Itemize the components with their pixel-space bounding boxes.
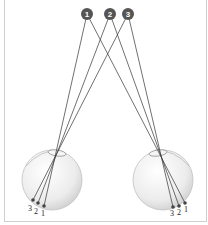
svg-text:2: 2 bbox=[108, 10, 113, 19]
left-retina-label-2: 2 bbox=[34, 207, 38, 216]
left-retina-label-3: 3 bbox=[28, 204, 32, 213]
object-2: 2 bbox=[104, 8, 116, 20]
left-eye bbox=[22, 149, 82, 210]
diagram-frame: 3 2 1 3 2 1 1 2 3 bbox=[0, 0, 208, 225]
right-retina-label-2: 2 bbox=[177, 208, 181, 217]
diagram-svg: 3 2 1 3 2 1 1 2 3 bbox=[0, 0, 208, 225]
svg-text:3: 3 bbox=[126, 10, 131, 19]
object-1: 1 bbox=[81, 8, 93, 20]
svg-text:1: 1 bbox=[85, 10, 90, 19]
object-3: 3 bbox=[122, 8, 134, 20]
right-retina-label-1: 1 bbox=[184, 205, 188, 214]
left-retina-label-1: 1 bbox=[41, 209, 45, 218]
right-retina-label-3: 3 bbox=[170, 209, 174, 218]
